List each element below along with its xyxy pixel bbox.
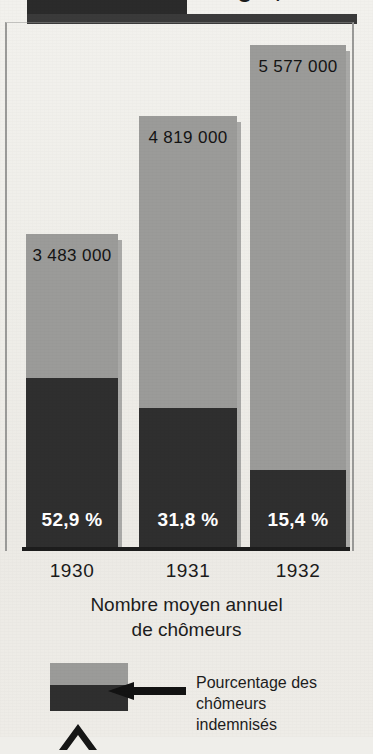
x-tick-1932: 1932 <box>250 560 346 582</box>
bar-percent-label: 52,9 % <box>26 509 118 531</box>
caption-line-2: de chômeurs <box>0 617 373 642</box>
legend-label: Pourcentage des chômeurs indemnisés <box>196 672 373 735</box>
chart-caption: Nombre moyen annuel de chômeurs <box>0 592 373 642</box>
bar-shadow <box>237 122 241 549</box>
bar-shadow <box>346 51 350 549</box>
bar-1930: 3 483 00052,9 % <box>26 234 118 549</box>
chevron-up-icon <box>55 720 101 750</box>
bar-value-label: 4 819 000 <box>139 128 237 148</box>
bar-shadow <box>118 240 122 549</box>
legend-label-line-1: Pourcentage des chômeurs <box>196 672 373 714</box>
bar-percent-label: 31,8 % <box>139 509 237 531</box>
x-axis-baseline <box>22 547 350 551</box>
bar-percent-label: 15,4 % <box>250 509 346 531</box>
caption-line-1: Nombre moyen annuel <box>0 592 373 617</box>
x-axis-tick-labels: 193019311932 <box>5 560 350 586</box>
left-arrow-icon <box>108 682 186 700</box>
x-tick-1930: 1930 <box>26 560 118 582</box>
bar-value-label: 5 577 000 <box>250 57 346 77</box>
bar-value-label: 3 483 000 <box>26 246 118 266</box>
chart-legend: Pourcentage des chômeurs indemnisés <box>0 658 373 737</box>
legend-label-line-2: indemnisés <box>196 714 373 735</box>
x-tick-1931: 1931 <box>139 560 237 582</box>
bar-1931: 4 819 00031,8 % <box>139 116 237 549</box>
page-title: Chômage , <box>150 0 360 4</box>
bar-1932: 5 577 00015,4 % <box>250 45 346 549</box>
